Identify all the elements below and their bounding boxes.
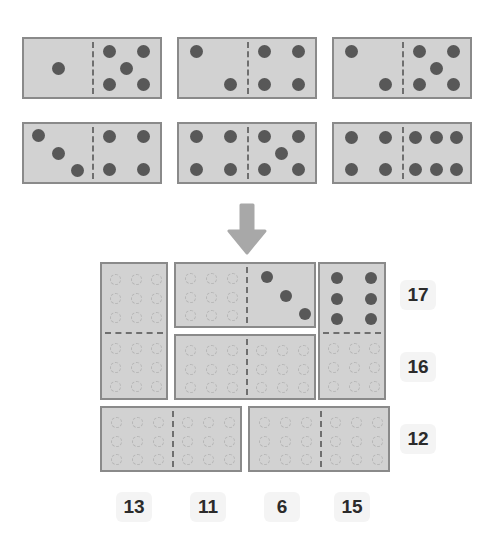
domino-half-second — [102, 333, 170, 402]
empty-pip-slot — [206, 382, 217, 393]
pip — [299, 308, 311, 320]
empty-pip-slot — [206, 292, 217, 303]
grid-tile-row1-mid[interactable] — [174, 262, 316, 328]
col-sum-label-3: 6 — [264, 492, 300, 522]
pip — [224, 78, 237, 91]
pip — [447, 45, 460, 58]
empty-pip-slot — [328, 343, 339, 354]
empty-pip-slot — [280, 454, 291, 465]
domino-half-right — [247, 39, 315, 97]
pip — [258, 45, 271, 58]
empty-pip-slot — [227, 364, 238, 375]
empty-pip-slot — [185, 345, 196, 356]
empty-pip-slot — [298, 382, 309, 393]
empty-pip-slot — [224, 454, 235, 465]
pip — [379, 131, 392, 144]
empty-pip-slot — [110, 362, 121, 373]
empty-pip-slot — [330, 454, 341, 465]
grid-tile-col4-vertical[interactable] — [318, 262, 386, 400]
empty-pip-slot — [111, 436, 122, 447]
pip — [71, 164, 84, 177]
col-sum-label-1: 13 — [116, 492, 152, 522]
empty-pip-slot — [182, 436, 193, 447]
pip — [137, 45, 150, 58]
empty-pip-slot — [227, 345, 238, 356]
empty-pip-slot — [131, 312, 142, 323]
domino-half-right — [92, 39, 160, 97]
domino-half-second — [247, 336, 318, 402]
source-domino-2[interactable] — [177, 37, 317, 99]
empty-pip-slot — [203, 436, 214, 447]
grid-tile-row3-left[interactable] — [100, 406, 242, 472]
pip — [331, 293, 343, 305]
empty-pip-slot — [369, 362, 380, 373]
domino-half-left — [179, 124, 247, 182]
empty-pip-slot — [259, 417, 270, 428]
empty-pip-slot — [151, 274, 162, 285]
domino-half-second — [321, 408, 392, 474]
empty-pip-slot — [301, 454, 312, 465]
empty-pip-slot — [301, 436, 312, 447]
grid-tile-row2-mid[interactable] — [174, 334, 316, 400]
domino-half-right — [402, 124, 470, 182]
empty-pip-slot — [206, 310, 217, 321]
empty-pip-slot — [151, 381, 162, 392]
empty-pip-slot — [298, 345, 309, 356]
empty-pip-slot — [131, 343, 142, 354]
pip — [103, 78, 116, 91]
pip — [103, 45, 116, 58]
pip — [379, 163, 392, 176]
empty-pip-slot — [110, 312, 121, 323]
source-domino-6[interactable] — [332, 122, 472, 184]
empty-pip-slot — [372, 454, 383, 465]
empty-pip-slot — [185, 364, 196, 375]
empty-pip-slot — [206, 273, 217, 284]
grid-tile-row3-right[interactable] — [248, 406, 390, 472]
domino-half-first — [176, 336, 247, 402]
empty-pip-slot — [132, 454, 143, 465]
empty-pip-slot — [153, 454, 164, 465]
pip — [280, 290, 292, 302]
empty-pip-slot — [110, 293, 121, 304]
empty-pip-slot — [328, 362, 339, 373]
source-domino-5[interactable] — [177, 122, 317, 184]
pip — [430, 131, 443, 144]
pip — [258, 78, 271, 91]
empty-pip-slot — [151, 293, 162, 304]
empty-pip-slot — [280, 417, 291, 428]
pip — [345, 131, 358, 144]
source-domino-3[interactable] — [332, 37, 472, 99]
empty-pip-slot — [227, 292, 238, 303]
domino-half-second — [320, 333, 388, 402]
domino-half-right — [92, 124, 160, 182]
source-domino-1[interactable] — [22, 37, 162, 99]
source-domino-4[interactable] — [22, 122, 162, 184]
empty-pip-slot — [131, 274, 142, 285]
empty-pip-slot — [372, 417, 383, 428]
empty-pip-slot — [280, 436, 291, 447]
empty-pip-slot — [349, 362, 360, 373]
domino-half-right — [247, 124, 315, 182]
pip — [365, 293, 377, 305]
domino-half-second — [173, 408, 244, 474]
domino-half-first — [102, 264, 170, 333]
pip — [345, 163, 358, 176]
pip — [137, 78, 150, 91]
pip — [409, 163, 422, 176]
grid-tile-col1-vertical[interactable] — [100, 262, 168, 400]
pip — [345, 45, 358, 58]
empty-pip-slot — [224, 436, 235, 447]
row-sum-label-1: 17 — [400, 280, 436, 310]
empty-pip-slot — [277, 382, 288, 393]
domino-half-left — [24, 124, 92, 182]
empty-pip-slot — [182, 417, 193, 428]
empty-pip-slot — [153, 436, 164, 447]
pip — [258, 130, 271, 143]
arrow-down-icon — [225, 203, 269, 255]
pip — [430, 62, 443, 75]
empty-pip-slot — [298, 364, 309, 375]
empty-pip-slot — [203, 417, 214, 428]
source-domino-tray — [0, 0, 494, 200]
puzzle-grid[interactable] — [100, 262, 390, 477]
empty-pip-slot — [224, 417, 235, 428]
